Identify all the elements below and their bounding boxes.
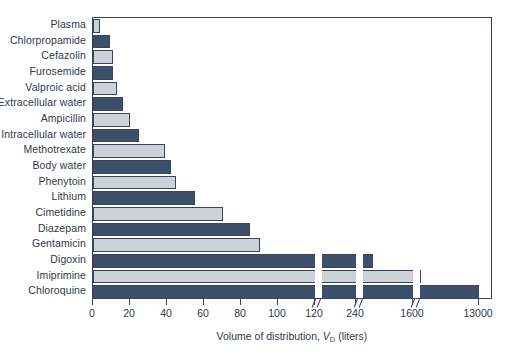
category-label: Methotrexate <box>24 142 86 158</box>
x-tick <box>478 299 479 305</box>
category-label: Lithium <box>51 189 86 205</box>
category-label: Imiprimine <box>37 268 86 284</box>
x-axis-title-symbol: V <box>323 330 330 342</box>
category-label: Cefazolin <box>41 48 86 64</box>
category-label: Gentamicin <box>32 236 86 252</box>
category-label: Plasma <box>50 17 86 33</box>
category-label: Diazepam <box>38 221 86 237</box>
x-tick-label: 40 <box>160 307 172 319</box>
axis-break-gap <box>413 18 420 298</box>
bar <box>93 82 117 95</box>
bar-series <box>93 18 491 298</box>
x-tick <box>240 299 241 305</box>
category-label: Furosemide <box>30 64 86 80</box>
bar <box>93 129 139 142</box>
x-tick <box>92 299 93 305</box>
x-tick-label: 80 <box>234 307 246 319</box>
category-label: Cimetidine <box>35 205 86 221</box>
x-tick-label: 60 <box>197 307 209 319</box>
x-tick-label: 13000 <box>463 307 492 319</box>
volume-of-distribution-bar-chart: PlasmaChlorpropamideCefazolinFurosemideV… <box>0 0 509 356</box>
bar <box>93 207 223 220</box>
x-tick <box>277 299 278 305</box>
bar <box>93 144 165 157</box>
category-label: Ampicillin <box>41 111 86 127</box>
bar <box>93 160 171 173</box>
bar <box>93 19 100 32</box>
bar <box>93 191 195 204</box>
x-axis-title-main: Volume of distribution, <box>217 330 323 342</box>
x-axis-title-tail: (liters) <box>335 330 367 342</box>
category-label: Body water <box>32 158 86 174</box>
axis-break-gap <box>315 18 322 298</box>
x-axis-title: Volume of distribution, VD (liters) <box>92 330 492 344</box>
bar <box>93 50 113 63</box>
category-label: Phenytoin <box>38 174 86 190</box>
x-tick <box>129 299 130 305</box>
category-label: Digoxin <box>50 252 86 268</box>
bar <box>93 113 130 126</box>
bar <box>93 97 123 110</box>
x-axis: 020406080100120240160013000 <box>92 299 492 300</box>
category-label-column: PlasmaChlorpropamideCefazolinFurosemideV… <box>0 17 88 299</box>
x-tick <box>166 299 167 305</box>
plot-area <box>92 17 492 299</box>
bar <box>93 238 260 251</box>
bar <box>93 223 250 236</box>
category-label: Chlorpropamide <box>10 33 86 49</box>
bar <box>93 254 373 267</box>
x-tick-label: 0 <box>89 307 95 319</box>
x-tick <box>203 299 204 305</box>
category-label: Intracellular water <box>1 127 86 143</box>
axis-break-gap <box>356 18 363 298</box>
category-label: Extracellular water <box>0 95 86 111</box>
bar <box>93 176 176 189</box>
category-label: Valproic acid <box>25 80 86 96</box>
bar <box>93 270 421 283</box>
x-tick-label: 20 <box>123 307 135 319</box>
bar <box>93 66 113 79</box>
bar <box>93 35 110 48</box>
category-label: Chloroquine <box>28 283 86 299</box>
x-tick-label: 100 <box>268 307 286 319</box>
